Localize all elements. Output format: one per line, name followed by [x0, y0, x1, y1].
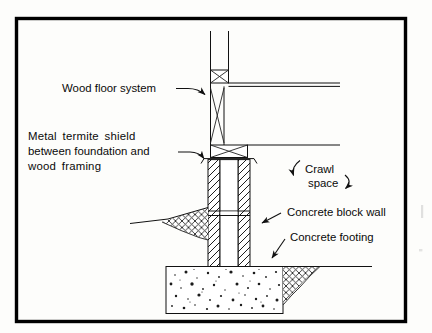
upper-sill-plate: [211, 70, 229, 83]
drawing-content: [130, 31, 372, 314]
label-wood-floor-system: Wood floor system: [62, 82, 156, 94]
foundation-section-drawing: Wood floor system Metal termite shield b…: [0, 0, 432, 333]
leader-concrete-block-wall: [262, 213, 281, 223]
label-termite-shield-line3: wood framing: [27, 160, 101, 172]
label-concrete-block-wall: Concrete block wall: [287, 206, 386, 218]
label-termite-shield-line1: Metal termite shield: [28, 130, 136, 142]
label-crawl-space-line2: space: [308, 177, 338, 189]
label-crawl-space-line1: Crawl: [305, 163, 334, 175]
leader-termite-shield: [178, 152, 204, 159]
scan-bleed-marks: [419, 205, 423, 251]
concrete-footing: [166, 267, 283, 314]
label-concrete-footing: Concrete footing: [290, 231, 374, 243]
floor-joist: [211, 86, 225, 145]
grade-left: [130, 208, 208, 241]
leader-wood-floor-system: [176, 89, 205, 95]
label-termite-shield-line2: between foundation and: [28, 145, 150, 157]
diagram-figure: Wood floor system Metal termite shield b…: [0, 0, 432, 333]
leader-concrete-footing: [272, 239, 285, 258]
lower-sill-plate: [211, 145, 248, 158]
grade-right: [283, 267, 372, 306]
floor-line-upper: [229, 83, 341, 86]
concrete-block-wall: [208, 160, 250, 267]
